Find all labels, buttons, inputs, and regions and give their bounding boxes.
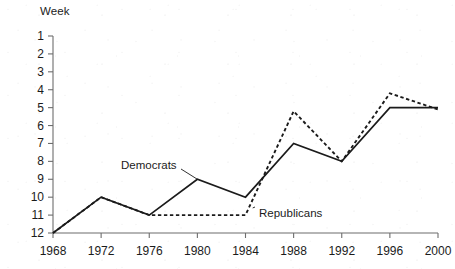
y-tick-label-5: 5 [22, 102, 44, 114]
y-tick-label-2: 2 [22, 48, 44, 60]
y-tick-label-7: 7 [22, 137, 44, 149]
annotation-leader-lines [181, 169, 255, 208]
y-tick-label-6: 6 [22, 120, 44, 132]
y-tick-label-3: 3 [22, 66, 44, 78]
x-tick-label-2000: 2000 [425, 245, 452, 257]
y-tick-label-9: 9 [22, 173, 44, 185]
y-tick-label-1: 1 [22, 30, 44, 42]
y-tick-label-11: 11 [22, 209, 44, 221]
week-by-election-year-line-chart: Week 123456789101112 1968197219761980198… [0, 0, 455, 269]
x-tick-label-1984: 1984 [232, 245, 259, 257]
y-tick-label-10: 10 [22, 191, 44, 203]
axes [48, 36, 438, 238]
x-tick-label-1980: 1980 [184, 245, 211, 257]
x-tick-label-1992: 1992 [328, 245, 355, 257]
x-tick-label-1968: 1968 [40, 245, 67, 257]
x-tick-label-1988: 1988 [280, 245, 307, 257]
plot-area [0, 0, 455, 269]
y-tick-label-12: 12 [22, 227, 44, 239]
x-tick-label-1972: 1972 [88, 245, 115, 257]
y-tick-label-8: 8 [22, 155, 44, 167]
series-line-republicans [53, 93, 438, 233]
data-series [53, 93, 438, 233]
series-annotation-republicans: Republicans [259, 208, 322, 220]
series-line-democrats [53, 108, 438, 233]
series-annotation-democrats: Democrats [121, 160, 177, 172]
x-tick-label-1996: 1996 [377, 245, 404, 257]
y-tick-label-4: 4 [22, 84, 44, 96]
x-tick-label-1976: 1976 [136, 245, 163, 257]
